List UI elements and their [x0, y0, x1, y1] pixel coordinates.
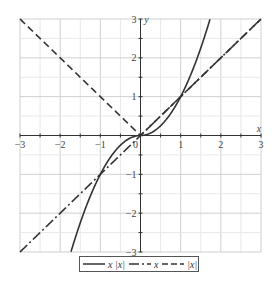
- legend-item-absx: |x|: [162, 259, 197, 270]
- legend-label: x: [154, 259, 158, 270]
- y-tick-label: −1: [126, 169, 137, 180]
- x-tick-label: −2: [55, 139, 66, 150]
- y-tick-label: 3: [132, 14, 137, 25]
- legend: x |x| x |x|: [79, 256, 199, 272]
- legend-item-xabsx: x |x|: [83, 259, 125, 270]
- solid-line-icon: [83, 261, 105, 267]
- x-tick-label: 0: [133, 139, 138, 150]
- x-tick-label: 3: [259, 139, 264, 150]
- legend-item-x: x: [129, 259, 158, 270]
- y-axis-label: y: [143, 14, 149, 25]
- y-tick-label: 2: [132, 52, 137, 63]
- x-tick-label: 1: [178, 139, 183, 150]
- function-plot: −3−2−10123−3−2−1123xy: [0, 0, 275, 256]
- legend-label: |x|: [187, 259, 197, 270]
- legend-label: x |x|: [108, 259, 125, 270]
- y-tick-label: −2: [126, 208, 137, 219]
- x-tick-label: 2: [218, 139, 223, 150]
- y-tick-label: −3: [126, 247, 137, 257]
- dash-dot-line-icon: [129, 261, 151, 267]
- x-tick-label: −3: [15, 139, 26, 150]
- dashed-line-icon: [162, 261, 184, 267]
- y-tick-label: 1: [132, 91, 137, 102]
- x-axis-label: x: [256, 123, 262, 134]
- x-tick-label: −1: [95, 139, 106, 150]
